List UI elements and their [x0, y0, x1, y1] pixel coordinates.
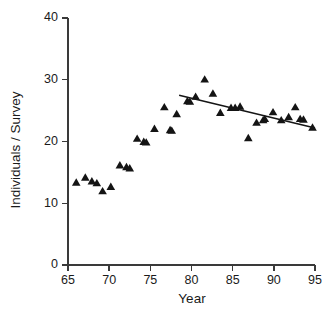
- data-point-marker: [150, 125, 159, 132]
- data-point-marker: [244, 134, 253, 141]
- data-point-marker: [116, 161, 125, 168]
- chart-figure: 010203040 65707580859095 Individuals / S…: [0, 0, 331, 321]
- y-axis-ticks: [62, 18, 68, 265]
- regression-line: [179, 95, 315, 128]
- y-tick-label: 20: [44, 134, 58, 148]
- x-tick-label: 80: [185, 273, 199, 287]
- trend-line: [179, 95, 315, 128]
- y-tick-labels: 010203040: [44, 10, 58, 271]
- x-tick-labels: 65707580859095: [61, 273, 322, 287]
- axis-spine: [68, 18, 315, 265]
- data-point-marker: [160, 103, 169, 110]
- data-point-marker: [284, 113, 293, 120]
- data-point-marker: [72, 178, 81, 185]
- data-point-marker: [107, 183, 116, 190]
- axes: [68, 18, 315, 265]
- y-axis-title: Individuals / Survey: [8, 91, 23, 208]
- data-point-marker: [200, 75, 209, 82]
- scatter-plot: 010203040 65707580859095 Individuals / S…: [0, 0, 331, 321]
- data-point-marker: [209, 89, 218, 96]
- data-point-marker: [98, 187, 107, 194]
- data-point-markers: [72, 75, 317, 194]
- x-tick-label: 75: [143, 273, 157, 287]
- x-tick-label: 90: [267, 273, 281, 287]
- y-tick-label: 40: [44, 10, 58, 24]
- x-tick-label: 85: [226, 273, 240, 287]
- x-tick-label: 95: [308, 273, 322, 287]
- x-axis-title: Year: [178, 291, 206, 306]
- data-point-marker: [269, 108, 278, 115]
- y-tick-label: 30: [44, 72, 58, 86]
- data-point-marker: [216, 109, 225, 116]
- x-axis-ticks: [68, 265, 315, 271]
- y-tick-label: 0: [51, 257, 58, 271]
- x-tick-label: 70: [102, 273, 116, 287]
- data-point-marker: [172, 110, 181, 117]
- data-point-marker: [291, 103, 300, 110]
- data-point-marker: [81, 173, 90, 180]
- y-tick-label: 10: [44, 196, 58, 210]
- x-tick-label: 65: [61, 273, 75, 287]
- data-point-marker: [133, 134, 142, 141]
